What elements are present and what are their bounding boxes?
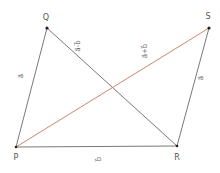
segment-pq [16,28,47,147]
vector-label-rs: a⃗ [197,76,205,81]
segment-pr [16,146,177,147]
point-q [45,26,48,29]
vector-diagram: P Q R S a⃗ a⃗-b⃗ b⃗ a⃗ a⃗+b⃗ [0,0,220,173]
point-p [15,146,18,149]
point-r [176,145,179,148]
vector-label-pr: b⃗ [94,156,103,162]
vector-label-ps: a⃗+b⃗ [140,43,149,58]
label-s: S [205,12,210,21]
vector-label-qr: a⃗-b⃗ [73,40,82,52]
label-r: R [174,153,180,162]
point-s [207,26,210,29]
segment-rs [177,28,209,146]
vector-label-pq: a⃗ [17,74,25,79]
label-p: P [14,153,19,162]
segment-qr [47,28,177,146]
segment-ps-diagonal [16,28,209,147]
label-q: Q [43,13,49,22]
